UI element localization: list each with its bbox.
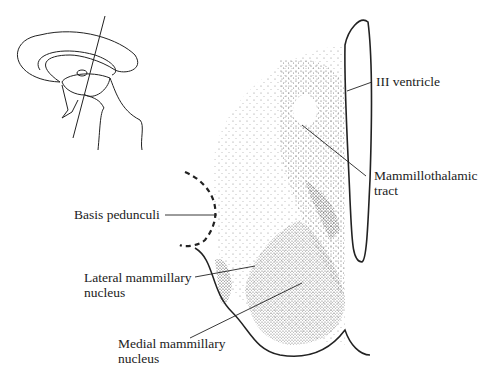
diagram-drawing [0, 0, 499, 374]
label-basis-pedunculi: Basis pedunculi [74, 207, 160, 222]
label-medial-mammillary-line1: Medial mammillary [118, 336, 226, 351]
label-lateral-mammillary-line2: nucleus [84, 285, 125, 300]
label-lateral-mammillary-line1: Lateral mammillary [84, 270, 192, 285]
label-mammillothalamic-line2: tract [374, 183, 398, 198]
label-iii-ventricle: III ventricle [376, 74, 440, 89]
third-ventricle-outline [345, 20, 372, 262]
sagittal-inset [17, 16, 142, 150]
diagram-canvas: III ventricle Mammillothalamic tract Bas… [0, 0, 499, 374]
label-medial-mammillary-line2: nucleus [118, 351, 159, 366]
label-mammillothalamic-line1: Mammillothalamic [374, 168, 477, 183]
